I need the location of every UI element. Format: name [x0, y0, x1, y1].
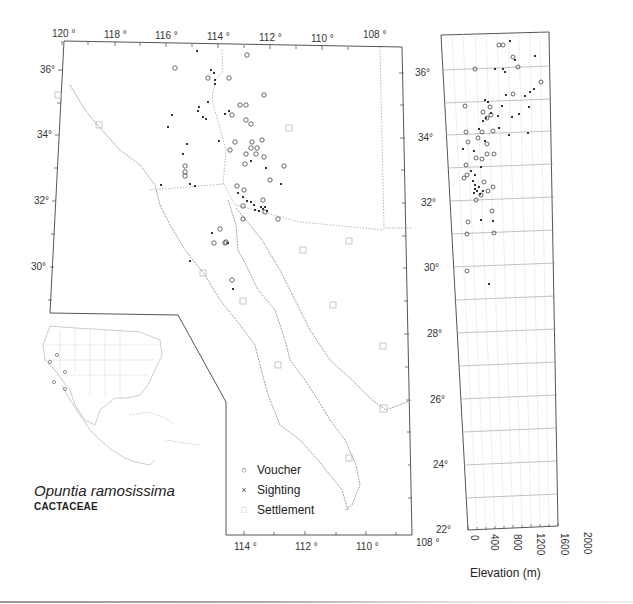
svg-text:112 °: 112 °: [295, 541, 318, 552]
svg-text:0: 0: [469, 535, 480, 541]
international-border: [150, 184, 384, 230]
voucher-points: [173, 53, 286, 282]
svg-text:114 °: 114 °: [234, 541, 257, 552]
svg-text:30°: 30°: [424, 262, 439, 273]
legend-item-settlement: □ Settlement: [237, 500, 314, 520]
state-lines: [44, 328, 160, 398]
mexico-central-america-outline: [62, 385, 155, 465]
svg-text:108 °: 108 °: [416, 537, 439, 548]
settlement-markers: [55, 92, 387, 461]
lesser-antilles: [165, 440, 200, 445]
inset-voucher-points: [48, 353, 66, 390]
settlement-square-icon: □: [237, 505, 251, 515]
left-graticule-ticks: [48, 70, 62, 300]
elevation-panel: 0 400 800 1200 1600 2000: [441, 32, 593, 556]
svg-text:36°: 36°: [40, 64, 55, 75]
svg-text:118 °: 118 °: [104, 29, 127, 40]
us-outline: [43, 326, 162, 425]
svg-text:1200: 1200: [535, 533, 546, 556]
svg-text:34°: 34°: [418, 132, 433, 143]
bottom-graticule-ticks: [244, 531, 396, 535]
svg-text:120 °: 120 °: [52, 28, 75, 39]
caribbean-islands: [130, 412, 175, 425]
right-tick-labels: 36° 34° 32° 30° 28° 26° 24° 22°: [415, 67, 451, 535]
legend-item-voucher: ○ Voucher: [237, 460, 314, 480]
family-name: CACTACEAE: [34, 501, 175, 512]
svg-text:34°: 34°: [37, 129, 52, 140]
sighting-x-icon: ×: [237, 485, 251, 495]
svg-text:2000: 2000: [582, 532, 593, 555]
svg-text:108 °: 108 °: [363, 29, 386, 40]
legend-label-voucher: Voucher: [257, 463, 301, 477]
legend: ○ Voucher × Sighting □ Settlement: [237, 460, 314, 520]
elevation-axis-label: Elevation (m): [470, 566, 541, 580]
voucher-circle-icon: ○: [237, 465, 251, 475]
svg-text:112 °: 112 °: [259, 32, 282, 43]
svg-text:116 °: 116 °: [155, 30, 178, 41]
svg-text:400: 400: [489, 534, 500, 551]
svg-text:26°: 26°: [430, 394, 445, 405]
svg-text:800: 800: [512, 534, 523, 551]
svg-text:32°: 32°: [34, 195, 49, 206]
elevation-sighting-points: [462, 40, 536, 285]
left-tick-labels: 36° 34° 32° 30°: [31, 64, 55, 272]
svg-text:110 °: 110 °: [356, 541, 379, 552]
sighting-points: [160, 50, 282, 290]
baja-pacific-coast: [70, 85, 348, 510]
species-caption: Opuntia ramosissima CACTACEAE: [34, 482, 175, 512]
svg-text:32°: 32°: [421, 197, 436, 208]
svg-text:30°: 30°: [31, 261, 46, 272]
legend-item-sighting: × Sighting: [237, 480, 314, 500]
map-frame: [50, 41, 412, 535]
svg-text:1600: 1600: [559, 533, 570, 556]
legend-label-sighting: Sighting: [257, 483, 300, 497]
svg-text:28°: 28°: [427, 328, 442, 339]
elevation-x-tick-labels: 0 400 800 1200 1600 2000: [469, 532, 593, 556]
legend-label-settlement: Settlement: [257, 503, 314, 517]
colorado-river: [212, 50, 226, 185]
inset-north-america-map: [43, 326, 200, 465]
bottom-divider: [0, 601, 633, 603]
svg-text:24°: 24°: [433, 459, 448, 470]
state-border-az-nm: [380, 47, 412, 228]
svg-text:36°: 36°: [415, 67, 430, 78]
bottom-tick-labels: 114 ° 112 ° 110 ° 108 °: [234, 537, 439, 552]
distribution-figure: 120 ° 118 ° 116 ° 114 ° 112 ° 110 ° 108 …: [0, 0, 633, 604]
svg-text:114 °: 114 °: [207, 31, 230, 42]
svg-text:110 °: 110 °: [311, 33, 334, 44]
svg-text:22°: 22°: [436, 524, 451, 535]
mainland-gulf-coast: [236, 208, 412, 410]
species-name: Opuntia ramosissima: [34, 482, 175, 499]
